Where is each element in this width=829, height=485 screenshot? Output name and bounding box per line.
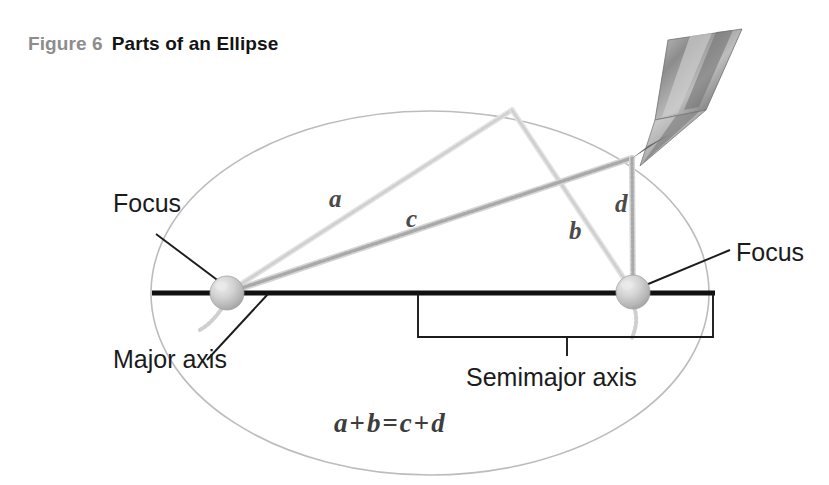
label-semimajor-axis: Semimajor axis [466,363,637,392]
ellipse-equation: a+b=c+d [334,408,445,439]
equation-term-d: d [431,408,445,438]
label-major-axis: Major axis [113,345,227,374]
equation-term-a: a [334,408,348,438]
string-tail-left [198,308,222,331]
equation-plus-1: + [348,408,367,438]
segment-label-d: d [615,190,628,218]
equation-plus-2: + [412,408,431,438]
equation-equals: = [380,408,399,438]
segment-label-c: c [406,205,417,233]
pencil-icon [631,29,742,166]
figure-container: Figure 6Parts of an Ellipse [0,0,829,485]
string-segment-a [227,110,512,293]
semimajor-axis-bracket [418,293,713,356]
segment-label-a: a [329,185,342,213]
equation-term-b: b [367,408,381,438]
label-focus-left: Focus [113,189,181,218]
string-tail-right [632,307,636,338]
equation-term-c: c [400,408,412,438]
focus-right-leader [641,250,730,287]
segment-label-b: b [569,217,582,245]
pin-icon-right [616,275,650,309]
label-focus-right: Focus [736,238,804,267]
pin-icon-left [210,276,244,310]
string-segment-d [632,158,633,292]
